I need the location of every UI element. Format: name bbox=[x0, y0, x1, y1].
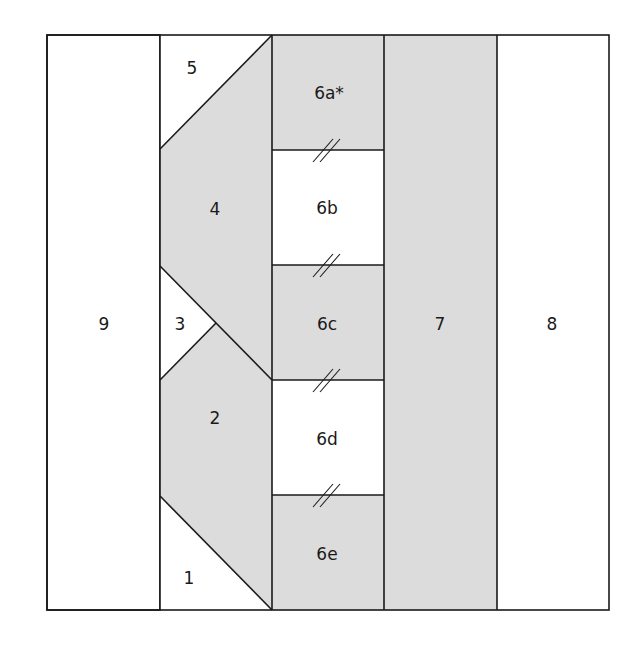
label-piece-4: 4 bbox=[210, 199, 221, 219]
label-piece-6d: 6d bbox=[316, 429, 338, 449]
label-piece-3: 3 bbox=[175, 314, 186, 334]
label-piece-5: 5 bbox=[187, 58, 198, 78]
label-piece-6c: 6c bbox=[317, 314, 337, 334]
label-piece-6b: 6b bbox=[316, 198, 338, 218]
label-piece-8: 8 bbox=[547, 314, 558, 334]
label-piece-6a: 6a* bbox=[314, 83, 344, 103]
label-piece-7: 7 bbox=[435, 314, 446, 334]
label-piece-2: 2 bbox=[210, 408, 221, 428]
label-piece-9: 9 bbox=[99, 314, 110, 334]
label-piece-6e: 6e bbox=[316, 544, 337, 564]
piecing-diagram: 9 5 4 3 2 1 6a* 6b 6c 6d 6e 7 8 bbox=[0, 0, 635, 645]
label-piece-1: 1 bbox=[184, 568, 195, 588]
